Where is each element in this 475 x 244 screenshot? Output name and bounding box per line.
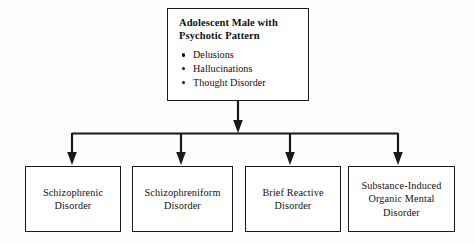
branch-arrowhead-4 [393,152,403,165]
branch-arrowhead-2 [176,152,186,165]
leaf-node-brief-reactive-disorder: Brief Reactive Disorder [245,166,341,232]
bullet-dot-icon [182,81,185,84]
symptom-list-item: Thought Disorder [193,76,299,90]
bullet-dot-icon [182,67,185,70]
symptom-label: Thought Disorder [193,77,266,88]
root-node-adolescent-male-psychotic-pattern: Adolescent Male with Psychotic Pattern D… [167,8,309,101]
root-node-title: Adolescent Male with Psychotic Pattern [179,16,299,42]
psychotic-pattern-flowchart: Adolescent Male with Psychotic Pattern D… [0,0,475,244]
symptom-label: Delusions [193,49,234,60]
branch-arrowhead-1 [67,152,77,165]
bullet-dot-icon [182,53,185,56]
leaf-node-label: Schizophreniform Disorder [145,186,221,213]
branch-arrowhead-3 [285,152,295,165]
root-symptom-list: Delusions Hallucinations Thought Disorde… [179,48,299,89]
leaf-node-label: Schizophrenic Disorder [43,186,103,213]
symptom-label: Hallucinations [193,63,252,74]
leaf-node-substance-induced-organic-mental-disorder: Substance-Induced Organic Mental Disorde… [348,166,455,232]
leaf-node-label: Brief Reactive Disorder [262,186,323,213]
leaf-node-label: Substance-Induced Organic Mental Disorde… [361,179,441,219]
symptom-list-item: Delusions [193,48,299,62]
leaf-node-schizophrenic-disorder: Schizophrenic Disorder [25,166,121,232]
symptom-list-item: Hallucinations [193,62,299,76]
leaf-node-schizophreniform-disorder: Schizophreniform Disorder [132,166,233,232]
root-stem-arrowhead [233,120,243,133]
